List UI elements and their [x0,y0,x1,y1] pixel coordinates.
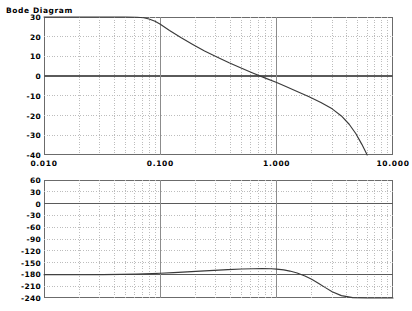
bode-diagram-figure: Bode Diagram 3020100-10-20-30-40 0.0100.… [0,0,412,311]
phase-y-tick-label: -180 [0,270,41,279]
phase-y-tick-label: 60 [0,176,41,185]
phase-y-tick-label: -30 [0,211,41,220]
x-tick-label: 10.000 [376,159,409,168]
magnitude-y-tick-label: -10 [0,91,41,100]
phase-y-tick-label: -210 [0,282,41,291]
phase-plot-canvas [44,180,393,298]
magnitude-plot-panel [44,17,393,155]
x-tick-label: 0.100 [147,159,174,168]
phase-y-tick-label: -150 [0,258,41,267]
magnitude-plot-canvas [44,17,393,155]
magnitude-y-tick-label: -30 [0,131,41,140]
phase-y-tick-label: -90 [0,235,41,244]
magnitude-y-tick-label: 10 [0,52,41,61]
magnitude-y-tick-label: -20 [0,111,41,120]
phase-y-tick-label: -60 [0,223,41,232]
x-tick-label: 0.010 [30,159,57,168]
phase-y-tick-label: 0 [0,199,41,208]
phase-y-tick-label: 30 [0,187,41,196]
phase-y-tick-label: -120 [0,246,41,255]
phase-plot-panel [44,180,393,298]
magnitude-y-tick-label: 20 [0,32,41,41]
magnitude-y-tick-label: 0 [0,72,41,81]
phase-y-tick-label: -240 [0,294,41,303]
x-tick-label: 1.000 [263,159,290,168]
magnitude-y-tick-label: 30 [0,13,41,22]
